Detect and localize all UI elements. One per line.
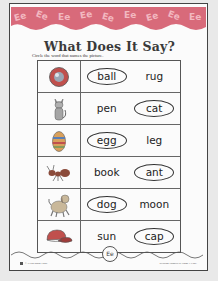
word-option[interactable]: egg (87, 132, 127, 149)
dog-icon (46, 192, 72, 218)
word-option[interactable]: ball (87, 68, 127, 85)
table-row: dog moon (38, 189, 180, 221)
word-option[interactable]: cat (134, 100, 174, 117)
word-option[interactable]: rug (134, 69, 174, 84)
table-row: egg leg (38, 125, 180, 157)
cat-icon (50, 96, 68, 122)
page-number-marker (20, 262, 23, 265)
picture-cell (38, 157, 81, 188)
svg-text:Ee: Ee (58, 12, 70, 22)
svg-text:Ee: Ee (124, 10, 136, 20)
svg-text:Ee: Ee (189, 12, 201, 22)
word-option[interactable]: ant (134, 164, 174, 181)
word-option[interactable]: cap (134, 228, 174, 245)
table-row: book ant (38, 157, 180, 189)
footer-book-title: Reading Phonics at Home • EMC (159, 262, 197, 265)
instructions: Circle the word that names the picture. (32, 53, 103, 58)
cap-icon (44, 227, 74, 247)
word-option[interactable]: dog (87, 196, 127, 213)
ball-icon (48, 66, 70, 88)
word-option[interactable]: pen (87, 101, 127, 116)
picture-cell (38, 189, 81, 220)
svg-text:Ee: Ee (79, 9, 93, 21)
header-band: Ee Ee Ee Ee Ee Ee Ee Ee Ee (11, 7, 206, 33)
ant-icon (46, 164, 72, 182)
footer-copyright: © Evan-Moor Corp. (20, 262, 48, 265)
egg-icon (51, 129, 67, 153)
word-option[interactable]: moon (134, 197, 174, 212)
word-option[interactable]: leg (134, 133, 174, 148)
word-option[interactable]: book (87, 165, 127, 180)
worksheet-page: Ee Ee Ee Ee Ee Ee Ee Ee Ee What Does It … (9, 3, 208, 271)
picture-cell (38, 125, 81, 156)
table-row: ball rug (38, 61, 180, 93)
word-option[interactable]: sun (87, 229, 127, 244)
picture-word-table: ball rug pen cat (37, 60, 181, 253)
footer-logo: Ee (102, 246, 118, 262)
table-row: pen cat (38, 93, 180, 125)
page-title: What Does It Say? (10, 39, 209, 54)
picture-cell (38, 93, 81, 124)
picture-cell (38, 61, 81, 92)
